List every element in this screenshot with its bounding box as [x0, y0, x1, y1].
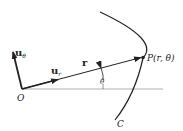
unit-vector-u-r: [22, 80, 58, 90]
label-r: r: [82, 57, 88, 68]
label-origin: O: [17, 93, 25, 103]
label-u-theta: uθ: [15, 47, 26, 59]
label-curve-c: C: [117, 119, 124, 129]
polar-coordinates-diagram: uθ ur r O P(r, θ) θ C: [0, 0, 183, 131]
diagram-canvas: uθ ur r O P(r, θ) θ C: [0, 0, 183, 131]
point-p: [141, 56, 145, 60]
label-u-r: ur: [51, 65, 62, 77]
label-theta: θ: [100, 78, 105, 86]
label-point-p: P(r, θ): [146, 53, 175, 63]
